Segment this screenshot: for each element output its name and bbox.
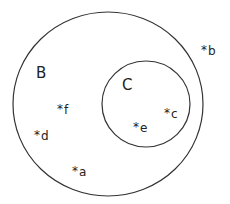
element-c-marker: *	[164, 106, 170, 120]
element-f-marker: *	[57, 102, 63, 116]
element-f: * f	[57, 102, 69, 117]
element-f-label: f	[64, 103, 69, 117]
element-d: * d	[34, 128, 49, 143]
element-e-marker: *	[133, 120, 139, 134]
set-c-label: C	[122, 76, 132, 94]
element-e-label: e	[140, 121, 147, 135]
element-a-marker: *	[72, 164, 78, 178]
element-b-label: b	[208, 44, 216, 58]
element-d-label: d	[41, 129, 49, 143]
element-b-marker: *	[201, 43, 207, 57]
element-c-label: c	[171, 107, 178, 121]
element-a: * a	[72, 164, 86, 179]
venn-diagram: B C * b * f * d * a * c * e	[0, 0, 230, 204]
element-a-label: a	[79, 165, 86, 179]
element-b: * b	[201, 43, 216, 58]
element-c: * c	[164, 106, 178, 121]
set-b-label: B	[36, 64, 46, 82]
element-e: * e	[133, 120, 147, 135]
element-d-marker: *	[34, 128, 40, 142]
set-b-circle	[13, 12, 203, 196]
